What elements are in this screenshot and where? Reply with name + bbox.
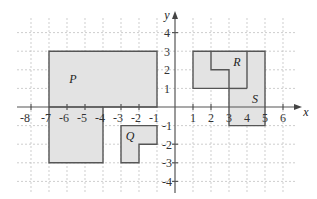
x-tick-label: -7 bbox=[41, 111, 51, 125]
y-tick-label: 3 bbox=[164, 45, 170, 59]
y-axis-arrow-icon bbox=[172, 11, 178, 19]
y-tick-label: -3 bbox=[162, 156, 172, 170]
y-tick-label: -2 bbox=[162, 138, 172, 152]
x-tick-label: 5 bbox=[262, 111, 268, 125]
x-tick-label: -6 bbox=[59, 111, 69, 125]
shape-label-r: R bbox=[232, 55, 241, 69]
y-axis-label: y bbox=[163, 8, 170, 22]
coordinate-grid-diagram: -8 -7 -6 -5 -4 -3 -2 -1 1 2 3 4 5 6 4 3 … bbox=[0, 0, 317, 199]
x-tick-label: 6 bbox=[280, 111, 286, 125]
x-tick-label: -1 bbox=[149, 111, 159, 125]
x-tick-label: 2 bbox=[208, 111, 214, 125]
y-tick-label: -4 bbox=[162, 175, 172, 189]
x-tick-label: -5 bbox=[77, 111, 87, 125]
x-tick-label: 3 bbox=[226, 111, 232, 125]
x-tick-label: -3 bbox=[113, 111, 123, 125]
x-tick-label: -2 bbox=[131, 111, 141, 125]
y-tick-label: 1 bbox=[164, 82, 170, 96]
x-axis-label: x bbox=[302, 105, 309, 119]
y-tick-label: -1 bbox=[162, 119, 172, 133]
x-axis-arrow-icon bbox=[294, 104, 302, 110]
shape-label-q: Q bbox=[126, 129, 135, 143]
y-tick-label: 2 bbox=[164, 63, 170, 77]
x-tick-label: -4 bbox=[95, 111, 105, 125]
x-tick-labels: -8 -7 -6 -5 -4 -3 -2 -1 1 2 3 4 5 6 bbox=[20, 111, 286, 125]
y-tick-label: 4 bbox=[164, 26, 170, 40]
x-tick-label: -8 bbox=[20, 111, 30, 125]
x-tick-label: 4 bbox=[244, 111, 250, 125]
x-tick-label: 1 bbox=[190, 111, 196, 125]
y-axis bbox=[172, 11, 178, 193]
shape-label-p: P bbox=[68, 72, 77, 86]
shape-label-s: S bbox=[252, 92, 258, 106]
